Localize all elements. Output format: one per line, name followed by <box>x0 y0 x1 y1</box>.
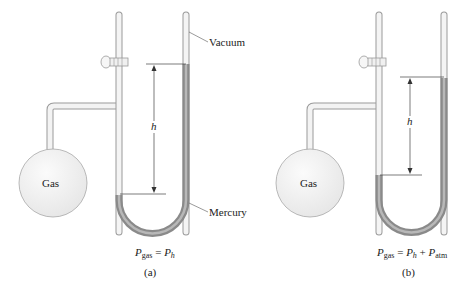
mercury-column-a <box>119 64 186 233</box>
mercury-label: Mercury <box>209 206 247 218</box>
stopcock-valve-a <box>101 56 128 68</box>
gas-label-b: Gas <box>300 177 317 189</box>
vacuum-label: Vacuum <box>209 36 245 48</box>
panel-b-apparatus <box>276 15 444 233</box>
eq-a-lhs-var: P <box>135 246 142 258</box>
eq-a-lhs-sub: gas <box>142 251 153 260</box>
eq-a-rhs-var: P <box>164 246 171 258</box>
vacuum-leader-line <box>189 32 208 42</box>
equation-b: Pgas = Ph + Patm <box>377 246 447 260</box>
height-label-a: h <box>151 120 157 132</box>
eq-b-plus: + <box>420 246 426 258</box>
eq-b-rhs1-var: P <box>406 246 413 258</box>
eq-a-equals: = <box>155 246 161 258</box>
caption-b: (b) <box>402 266 415 278</box>
eq-b-rhs2-sub: atm <box>435 251 447 260</box>
gas-label-a: Gas <box>42 177 59 189</box>
mercury-column-b <box>379 78 444 233</box>
eq-a-rhs-sub: h <box>171 251 175 260</box>
height-label-b: h <box>407 115 413 127</box>
eq-b-lhs-sub: gas <box>384 251 395 260</box>
caption-a: (a) <box>144 266 156 278</box>
eq-b-rhs1-sub: h <box>413 251 417 260</box>
equation-a: Pgas = Ph <box>135 246 175 260</box>
stopcock-valve-b <box>359 56 386 68</box>
eq-b-lhs-var: P <box>377 246 384 258</box>
mercury-leader-line <box>189 203 208 212</box>
eq-b-equals: = <box>397 246 403 258</box>
panel-a-apparatus <box>19 15 208 233</box>
